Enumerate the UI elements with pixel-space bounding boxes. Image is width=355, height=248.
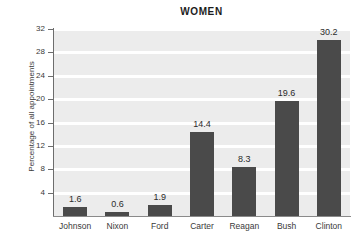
x-axis-tick-label: Clinton — [299, 221, 355, 231]
bar-value-label: 19.6 — [262, 89, 312, 98]
bar-value-label: 30.2 — [304, 28, 354, 37]
bar-value-label: 1.9 — [135, 193, 185, 202]
chart-title: WOMEN — [53, 6, 350, 17]
bar — [232, 167, 256, 216]
y-axis-tick-label: 32 — [5, 25, 45, 33]
y-axis-tick — [48, 76, 53, 77]
y-axis-line — [53, 28, 54, 217]
y-axis-tick-label: 8 — [5, 165, 45, 173]
bar-value-label: 8.3 — [219, 155, 269, 164]
x-axis-line — [53, 216, 351, 217]
gridline — [54, 75, 350, 78]
y-axis-title: Percentage of all appointments — [27, 32, 36, 202]
bar — [148, 205, 172, 216]
y-axis-tick — [48, 169, 53, 170]
bar — [105, 212, 129, 216]
bar — [275, 101, 299, 216]
y-axis-tick — [48, 52, 53, 53]
y-axis-tick-label: 12 — [5, 142, 45, 150]
y-axis-tick — [48, 193, 53, 194]
y-axis-tick-label: 20 — [5, 95, 45, 103]
y-axis-tick — [48, 99, 53, 100]
y-axis-tick — [48, 29, 53, 30]
bar-value-label: 14.4 — [177, 120, 227, 129]
bar — [317, 40, 341, 216]
bar-chart: WOMEN Percentage of all appointments 481… — [0, 0, 355, 248]
y-axis-tick — [48, 123, 53, 124]
y-axis-tick-label: 28 — [5, 48, 45, 56]
y-axis-tick — [48, 146, 53, 147]
gridline — [54, 98, 350, 101]
bar — [190, 132, 214, 216]
bar — [63, 207, 87, 216]
y-axis-tick-label: 4 — [5, 189, 45, 197]
gridline — [54, 51, 350, 54]
y-axis-tick-label: 24 — [5, 72, 45, 80]
y-axis-tick-label: 16 — [5, 119, 45, 127]
